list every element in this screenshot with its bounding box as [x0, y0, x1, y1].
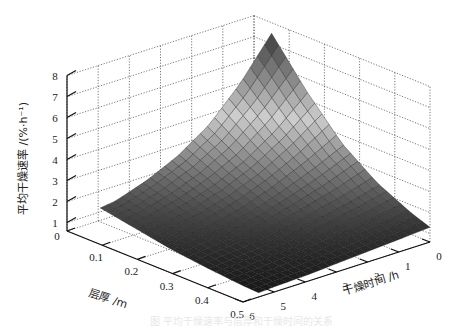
x-tick-label: 0.1	[89, 251, 103, 263]
surface-mesh	[100, 33, 430, 293]
z-tick-label: 8	[52, 70, 58, 82]
z-tick-label: 5	[52, 133, 58, 145]
x-tick	[243, 299, 251, 302]
x-tick	[102, 242, 110, 245]
x-tick-label: 0.2	[125, 265, 139, 277]
z-tick-label: 3	[52, 175, 58, 187]
y-tick	[329, 269, 337, 272]
y-tick	[266, 289, 274, 292]
z-tick-label: 7	[52, 91, 58, 103]
figure-caption: 图 平均干燥速率与层厚和干燥时间的关系	[150, 315, 333, 327]
z-tick-label: 0	[54, 230, 60, 242]
x-tick-label: 0.4	[195, 294, 209, 306]
y-tick	[422, 239, 430, 242]
y-tick-label: 4	[312, 290, 318, 302]
y-tick-label: 1	[405, 260, 411, 272]
z-tick-label: 6	[52, 112, 58, 124]
z-tick-label: 2	[52, 196, 58, 208]
y-tick-label: 0	[436, 250, 442, 262]
x-tick	[137, 256, 145, 259]
surface-chart: 1234567800.10.20.30.40.50123456 平均干燥速率 /…	[0, 0, 455, 332]
z-tick-label: 4	[52, 154, 58, 166]
y-tick	[360, 259, 368, 262]
x-tick-label: 0.3	[160, 280, 174, 292]
y-tick-label: 5	[280, 300, 286, 312]
z-axis-title: 平均干燥速率 /(%·h⁻¹)	[16, 102, 30, 215]
x-axis-title: 层厚 /m	[87, 286, 129, 311]
y-tick	[391, 249, 399, 252]
y-tick	[235, 299, 243, 302]
x-tick	[173, 271, 181, 274]
z-tick-label: 1	[52, 217, 58, 229]
y-tick	[297, 279, 305, 282]
x-tick	[67, 228, 75, 231]
y-axis-title: 干燥时间 /h	[341, 268, 400, 297]
x-tick	[208, 285, 216, 288]
